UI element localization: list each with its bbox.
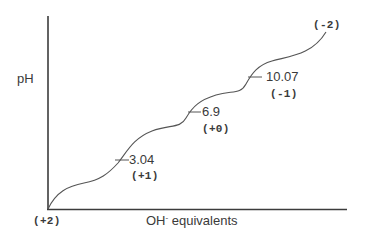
- pka3-charge-label: (-1): [270, 89, 298, 100]
- titration-curve-figure: pH OH- equivalents (+2) (-2) 3.04 (+1) 6…: [0, 0, 367, 245]
- pka2-charge-label: (+0): [202, 124, 230, 135]
- x-axis-label: OH- equivalents: [146, 214, 238, 227]
- pka3-value-label: 10.07: [266, 70, 299, 83]
- start-charge-label: (+2): [33, 216, 61, 227]
- end-charge-label: (-2): [313, 20, 341, 31]
- pka1-value-label: 3.04: [129, 153, 154, 166]
- x-axis-label-main: OH: [146, 213, 166, 228]
- x-axis-label-rest: equivalents: [168, 213, 237, 228]
- pka2-value-label: 6.9: [202, 105, 220, 118]
- y-axis-label: pH: [17, 72, 34, 85]
- chart-canvas: [0, 0, 367, 245]
- titration-curve: [48, 32, 326, 209]
- pka1-charge-label: (+1): [131, 171, 159, 182]
